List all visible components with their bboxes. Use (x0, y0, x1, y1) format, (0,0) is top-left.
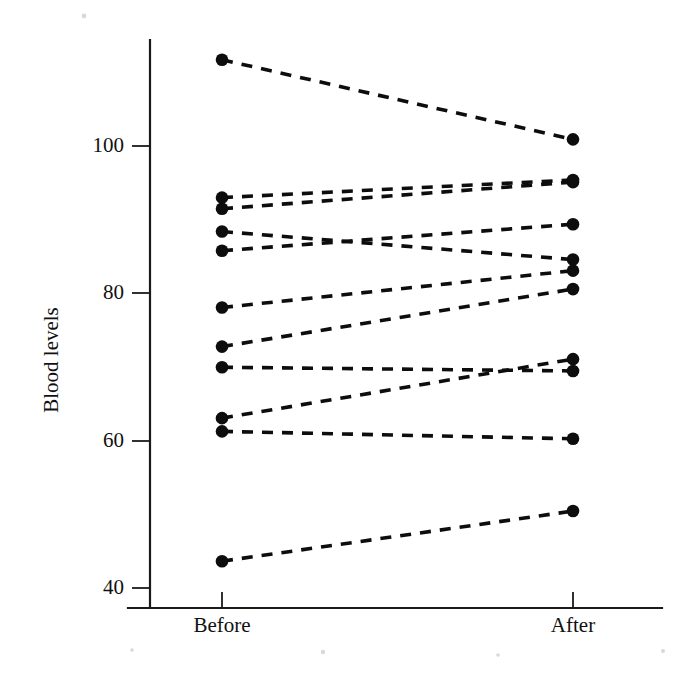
y-tick-label-60: 60 (103, 428, 124, 452)
x-axis-ticks (222, 592, 573, 608)
data-point (567, 264, 580, 277)
data-point (216, 361, 229, 374)
pair-line (222, 182, 573, 209)
data-point (567, 218, 580, 231)
y-axis-title: Blood levels (39, 307, 63, 413)
pair-line (222, 431, 573, 438)
pair-line (222, 271, 573, 308)
data-point (567, 283, 580, 296)
pair-line (222, 60, 573, 140)
data-series-layer (216, 53, 580, 567)
paper-specks (82, 14, 665, 657)
y-axis-ticks (132, 146, 150, 588)
y-tick-label-80: 80 (103, 280, 124, 304)
data-point (567, 253, 580, 266)
data-point (216, 412, 229, 425)
data-point (216, 301, 229, 314)
data-point (216, 555, 229, 568)
data-point (567, 432, 580, 445)
data-point (216, 225, 229, 238)
data-point (216, 425, 229, 438)
data-point (567, 133, 580, 146)
pair-line (222, 180, 573, 198)
data-point (567, 176, 580, 189)
chart-figure: 100 80 60 40 Before After Blood levels (0, 0, 688, 676)
pair-line (222, 289, 573, 347)
data-point (567, 505, 580, 518)
x-tick-label-before: Before (193, 613, 250, 637)
data-point (216, 244, 229, 257)
pair-line (222, 232, 573, 260)
data-point (216, 340, 229, 353)
data-point (216, 202, 229, 215)
paired-before-after-plot: 100 80 60 40 Before After Blood levels (0, 0, 688, 676)
y-tick-label-40: 40 (103, 575, 124, 599)
data-point (216, 191, 229, 204)
x-tick-label-after: After (551, 613, 595, 637)
data-point (567, 365, 580, 378)
pair-line (222, 224, 573, 251)
pair-line (222, 359, 573, 418)
pair-line (222, 511, 573, 561)
data-point (567, 353, 580, 366)
y-tick-label-100: 100 (93, 133, 125, 157)
data-point (216, 53, 229, 66)
